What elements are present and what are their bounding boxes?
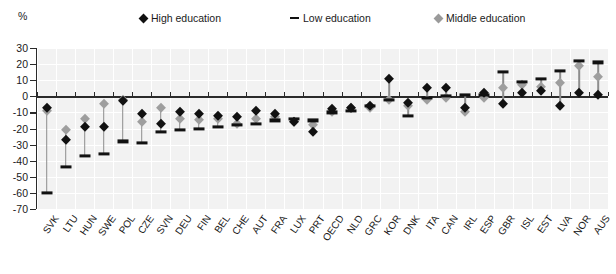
data-column[interactable] — [113, 48, 132, 209]
x-tick-label: AUT — [249, 213, 269, 236]
y-tick-label: -50 — [0, 172, 28, 182]
data-column[interactable] — [551, 48, 570, 209]
data-column[interactable] — [189, 48, 208, 209]
x-tick-label: LUX — [288, 213, 308, 235]
data-column[interactable] — [246, 48, 265, 209]
marker-low-education — [384, 98, 395, 101]
x-tick-label: SVN — [154, 213, 175, 236]
x-tick-label: BEL — [212, 213, 232, 235]
legend-item-2[interactable]: Low education — [290, 8, 371, 28]
data-column[interactable] — [323, 48, 342, 209]
x-tick-label: SWE — [96, 213, 118, 238]
marker-low-education — [574, 59, 585, 62]
data-column[interactable] — [151, 48, 170, 209]
marker-low-education — [98, 153, 109, 156]
y-tick-label: 10 — [0, 75, 28, 85]
x-tick-label: GBR — [496, 213, 517, 237]
marker-low-education — [231, 124, 242, 127]
range-stem — [46, 108, 48, 193]
data-column[interactable] — [342, 48, 361, 209]
data-column[interactable] — [589, 48, 608, 209]
y-tick-mark — [30, 177, 36, 178]
x-axis-labels: SVKLTUHUNSWEPOLCZESVNDEUFINBELCHEAUTFRAL… — [37, 209, 608, 274]
y-tick-label: -30 — [0, 140, 28, 150]
data-column[interactable] — [475, 48, 494, 209]
x-tick-label: FRA — [268, 213, 288, 236]
legend-label: High education — [151, 12, 221, 24]
marker-low-education — [212, 125, 223, 128]
legend-label: Middle education — [446, 12, 525, 24]
marker-low-education — [422, 96, 433, 99]
x-tick-label: EST — [535, 213, 555, 235]
vertical-gridline — [608, 48, 609, 209]
data-column[interactable] — [265, 48, 284, 209]
legend-item-1[interactable]: High education — [140, 8, 221, 28]
marker-high-education — [155, 118, 165, 128]
data-column[interactable] — [284, 48, 303, 209]
diamond-black-icon — [139, 13, 149, 23]
x-tick-label: HUN — [77, 213, 98, 237]
chart-legend: High educationLow educationMiddle educat… — [0, 8, 616, 28]
plot-area — [37, 48, 608, 209]
marker-low-education — [498, 71, 509, 74]
marker-low-education — [193, 127, 204, 130]
marker-low-education — [136, 141, 147, 144]
marker-low-education — [174, 129, 185, 132]
y-tick-label: -20 — [0, 124, 28, 134]
data-column[interactable] — [399, 48, 418, 209]
data-column[interactable] — [513, 48, 532, 209]
data-column[interactable] — [303, 48, 322, 209]
data-column[interactable] — [56, 48, 75, 209]
marker-low-education — [250, 122, 261, 125]
marker-low-education — [593, 61, 604, 64]
data-column[interactable] — [170, 48, 189, 209]
data-column[interactable] — [227, 48, 246, 209]
y-tick-label: 30 — [0, 43, 28, 53]
marker-low-education — [41, 191, 52, 194]
data-column[interactable] — [37, 48, 56, 209]
x-tick-label: CZE — [135, 213, 155, 236]
data-column[interactable] — [361, 48, 380, 209]
marker-high-education — [308, 126, 318, 136]
data-column[interactable] — [208, 48, 227, 209]
x-tick-label: FIN — [195, 213, 213, 233]
y-tick-mark — [30, 96, 36, 97]
x-tick-label: NOR — [572, 213, 594, 238]
marker-high-education — [79, 122, 89, 132]
marker-low-education — [403, 114, 414, 117]
y-tick-label: -60 — [0, 188, 28, 198]
data-column[interactable] — [532, 48, 551, 209]
x-tick-label: CHE — [230, 213, 251, 237]
data-column[interactable] — [132, 48, 151, 209]
data-column[interactable] — [570, 48, 589, 209]
marker-middle-education — [498, 83, 508, 93]
x-tick-label: AUS — [592, 213, 613, 236]
data-column[interactable] — [494, 48, 513, 209]
marker-high-education — [498, 99, 508, 109]
marker-high-education — [136, 109, 146, 119]
marker-high-education — [384, 73, 394, 83]
x-tick-label: DEU — [173, 213, 194, 237]
legend-item-3[interactable]: Middle education — [435, 8, 525, 28]
legend-label: Low education — [303, 12, 371, 24]
y-tick-label: 20 — [0, 59, 28, 69]
y-tick-mark — [30, 209, 36, 210]
data-column[interactable] — [75, 48, 94, 209]
data-column[interactable] — [94, 48, 113, 209]
y-tick-label: -70 — [0, 204, 28, 214]
y-tick-mark — [30, 161, 36, 162]
y-tick-mark — [30, 145, 36, 146]
y-tick-mark — [30, 193, 36, 194]
x-tick-label: KOR — [382, 213, 403, 237]
marker-low-education — [441, 95, 452, 98]
data-column[interactable] — [418, 48, 437, 209]
data-column[interactable] — [437, 48, 456, 209]
data-column[interactable] — [380, 48, 399, 209]
marker-low-education — [60, 166, 71, 169]
y-axis-labels: 3020100-10-20-30-40-50-60-70 — [0, 48, 28, 209]
y-tick-label: -40 — [0, 156, 28, 166]
data-column[interactable] — [456, 48, 475, 209]
x-tick-label: SVK — [40, 213, 60, 236]
y-tick-label: 0 — [0, 91, 28, 101]
y-tick-mark — [30, 129, 36, 130]
